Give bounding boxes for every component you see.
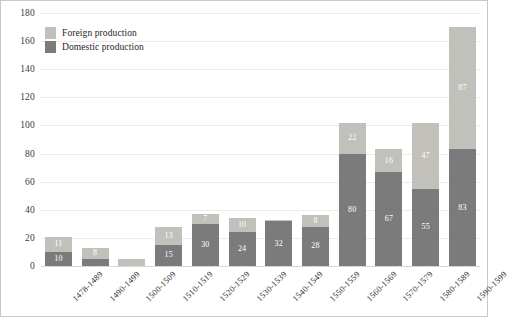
x-axis-tick-label: 1490-1499 (107, 269, 141, 303)
x-axis-tick-label: 1510-1519 (180, 269, 214, 303)
legend-label-domestic: Domestic production (62, 42, 144, 52)
bar-segment-domestic[interactable]: 30 (192, 224, 219, 266)
y-axis-tick-label: 60 (25, 177, 35, 187)
bar-value-label: 8 (93, 249, 97, 257)
y-axis-tick-label: 120 (20, 92, 35, 102)
bar-value-label: 8 (313, 217, 317, 225)
x-axis-tick-label: 1570-1579 (400, 269, 434, 303)
bar-segment-foreign[interactable]: 11 (45, 237, 72, 252)
bar-segment-domestic[interactable]: 10 (45, 252, 72, 266)
legend-item-domestic[interactable]: Domestic production (45, 41, 144, 53)
bar-value-label: 22 (348, 134, 356, 142)
bar-column[interactable]: 2280 (339, 13, 366, 266)
chart-legend: Foreign productionDomestic production (45, 27, 144, 53)
bar-value-label: 55 (421, 223, 429, 231)
bar-value-label: 67 (385, 215, 393, 223)
y-axis-tick-label: 20 (25, 233, 35, 243)
bar-segment-foreign[interactable]: 87 (449, 27, 476, 149)
legend-label-foreign: Foreign production (62, 28, 137, 38)
bar-column[interactable]: 828 (302, 13, 329, 266)
legend-swatch-domestic (45, 41, 56, 53)
bar-segment-domestic[interactable]: 67 (375, 172, 402, 266)
bar-value-label: 10 (238, 221, 246, 229)
bar-segment-domestic[interactable]: 24 (229, 232, 256, 266)
y-axis: 020406080100120140160180 (1, 13, 41, 266)
bar-segment-domestic[interactable]: 5 (82, 259, 109, 266)
bar-value-label: 47 (421, 152, 429, 160)
bar-segment-foreign[interactable]: 8 (302, 215, 329, 226)
x-axis-tick-label: 1590-1599 (474, 269, 508, 303)
bar-segment-domestic[interactable]: 55 (412, 189, 439, 266)
bar-column[interactable]: 4755 (412, 13, 439, 266)
bar-value-label: 16 (385, 157, 393, 165)
bar-segment-foreign[interactable]: 8 (82, 248, 109, 259)
x-axis-tick-label: 1540-1549 (290, 269, 324, 303)
bar-segment-domestic[interactable]: 15 (155, 245, 182, 266)
bar-segment-foreign[interactable]: 10 (229, 218, 256, 232)
bar-column[interactable]: 730 (192, 13, 219, 266)
bar-segment-foreign[interactable]: 22 (339, 123, 366, 154)
y-axis-tick-label: 180 (20, 8, 35, 18)
bar-value-label: 28 (311, 242, 319, 250)
legend-swatch-foreign (45, 27, 56, 39)
bar-column[interactable]: 1024 (229, 13, 256, 266)
bar-segment-domestic[interactable]: 32 (265, 221, 292, 266)
bar-column[interactable]: 1667 (375, 13, 402, 266)
x-axis-tick-label: 1478-1489 (70, 269, 104, 303)
bar-segment-foreign[interactable]: 13 (155, 227, 182, 245)
bar-column[interactable]: 32 (265, 13, 292, 266)
x-axis: 1478-14891490-14991500-15091510-15191520… (41, 267, 480, 317)
x-axis-tick-label: 1580-1589 (437, 269, 471, 303)
bar-value-label: 87 (458, 84, 466, 92)
bar-value-label: 10 (54, 255, 62, 263)
bar-segment-domestic[interactable]: 83 (449, 149, 476, 266)
bar-column[interactable]: 1315 (155, 13, 182, 266)
y-axis-tick-label: 80 (25, 149, 35, 159)
bar-column[interactable]: 8783 (449, 13, 476, 266)
bar-value-label: 11 (54, 240, 62, 248)
y-axis-tick-label: 140 (20, 64, 35, 74)
bar-value-label: 13 (164, 232, 172, 240)
legend-item-foreign[interactable]: Foreign production (45, 27, 144, 39)
bar-segment-domestic[interactable]: 80 (339, 154, 366, 266)
bar-value-label: 7 (203, 215, 207, 223)
bar-segment-domestic[interactable]: 28 (302, 227, 329, 266)
bar-segment-foreign[interactable]: 5 (118, 259, 145, 266)
y-axis-tick-label: 160 (20, 36, 35, 46)
x-axis-tick-label: 1500-1509 (143, 269, 177, 303)
x-axis-tick-label: 1550-1559 (327, 269, 361, 303)
x-axis-tick-label: 1520-1529 (217, 269, 251, 303)
bar-value-label: 24 (238, 245, 246, 253)
bar-value-label: 15 (164, 251, 172, 259)
y-axis-tick-label: 0 (30, 261, 35, 271)
bar-value-label: 80 (348, 206, 356, 214)
bar-value-label: 30 (201, 241, 209, 249)
bar-segment-foreign[interactable]: 16 (375, 149, 402, 171)
y-axis-tick-label: 40 (25, 205, 35, 215)
y-axis-tick-label: 100 (20, 120, 35, 130)
bar-segment-foreign[interactable]: 47 (412, 123, 439, 189)
bar-value-label: 32 (275, 240, 283, 248)
x-axis-tick-label: 1530-1539 (254, 269, 288, 303)
bar-value-label: 83 (458, 204, 466, 212)
x-axis-tick-label: 1560-1569 (364, 269, 398, 303)
bar-segment-foreign[interactable]: 7 (192, 214, 219, 224)
